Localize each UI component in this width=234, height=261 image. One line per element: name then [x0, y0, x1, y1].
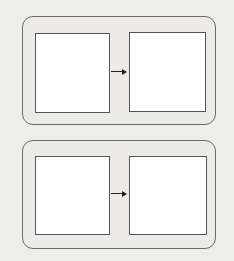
box-molecules-after: [129, 156, 207, 235]
box-gas-atoms: [35, 33, 110, 113]
arrow-right-icon: [111, 193, 126, 194]
arrow-right-icon: [111, 71, 126, 72]
box-molecules-before: [35, 156, 110, 235]
box-packed-solid: [129, 32, 206, 112]
